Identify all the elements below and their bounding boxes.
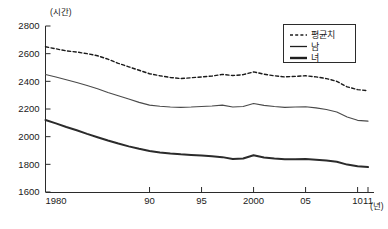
y-tick-label: 2400 — [18, 76, 39, 87]
chart-legend: 평균치남녀 — [284, 25, 356, 64]
legend-label-남: 남 — [311, 42, 319, 52]
x-tick-label: 05 — [300, 195, 311, 206]
y-tick-label: 2000 — [18, 131, 39, 142]
x-tick-label: 90 — [144, 195, 155, 206]
y-axis-unit-label: (시간) — [50, 7, 72, 17]
legend-label-녀: 녀 — [311, 53, 319, 63]
y-tick-label: 2200 — [18, 103, 39, 114]
x-tick-label: 1980 — [46, 195, 67, 206]
chart-container: 2800260024002200200018001600 19809095200… — [0, 0, 388, 229]
x-tick-label: 95 — [196, 195, 207, 206]
y-tick-label: 2600 — [18, 48, 39, 59]
series-line-남 — [46, 74, 369, 121]
series-line-녀 — [46, 120, 369, 167]
x-axis-ticks: 198090952000051011 — [46, 187, 373, 206]
line-chart: 2800260024002200200018001600 19809095200… — [0, 0, 388, 229]
x-tick-label: 10 — [352, 195, 363, 206]
y-tick-label: 1800 — [18, 159, 39, 170]
legend-label-평균치: 평균치 — [311, 29, 335, 40]
x-tick-label: 2000 — [243, 195, 264, 206]
y-tick-label: 1600 — [18, 186, 39, 197]
x-axis-unit-label: (년) — [370, 201, 384, 211]
y-tick-label: 2800 — [18, 20, 39, 31]
data-series-group — [46, 47, 369, 167]
